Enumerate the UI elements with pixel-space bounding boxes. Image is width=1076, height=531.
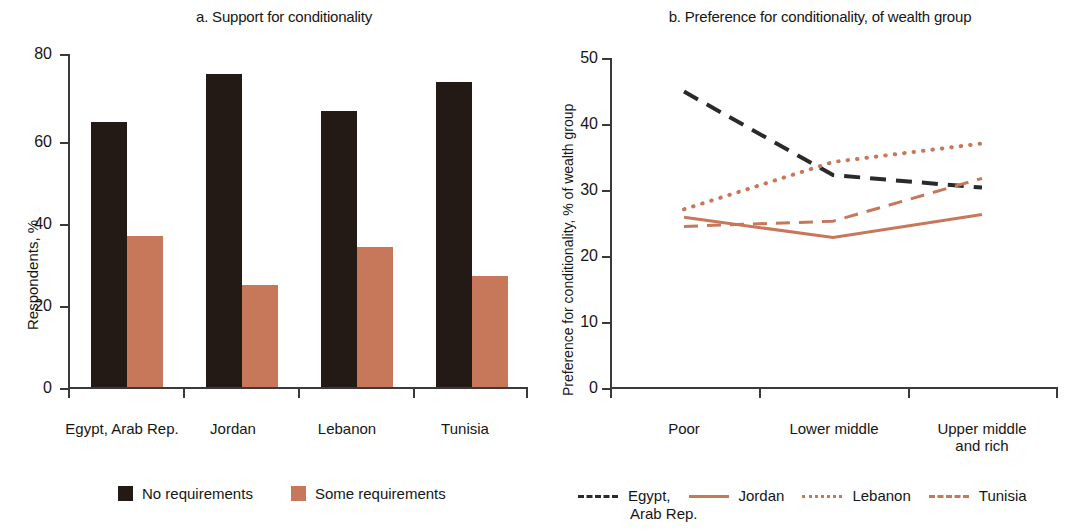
legend-swatch-accent-icon [291, 486, 306, 501]
bar-some-requirements-egypt[interactable] [127, 236, 163, 387]
panel-a-ytick-80: 80 [8, 45, 52, 63]
panel-a-ytick-0: 0 [8, 379, 52, 397]
panel-a-xlabel-jordan: Jordan [176, 420, 290, 437]
legend-label-egypt: Egypt, [628, 487, 671, 504]
legend-item-no-requirements[interactable]: No requirements [118, 485, 253, 502]
figure-root: a. Support for conditionality Respondent… [0, 0, 1076, 531]
panel-a-legend: No requirements Some requirements [118, 485, 446, 502]
panel-b-preference-for-conditionality: b. Preference for conditionality, of wea… [538, 0, 1076, 531]
panel-a-xtick-2 [298, 389, 300, 398]
legend-item-jordan[interactable]: Jordan [689, 487, 785, 504]
panel-b-xlabel-poor: Poor [624, 420, 744, 437]
legend-label-egypt-line2: Arab Rep. [630, 505, 1076, 522]
legend-label-jordan: Jordan [739, 487, 785, 504]
panel-b-xlabel-upper-middle-and-rich: Upper middle and rich [920, 420, 1044, 455]
bar-some-requirements-jordan[interactable] [242, 285, 278, 387]
line-jordan[interactable] [684, 215, 982, 238]
legend-label-some-requirements: Some requirements [315, 485, 446, 502]
bar-some-requirements-tunisia[interactable] [472, 276, 508, 387]
bar-no-requirements-jordan[interactable] [206, 74, 242, 387]
panel-a-ytick-20: 20 [8, 297, 52, 315]
panel-b-plot-area [538, 0, 1076, 400]
panel-a-xtick-0 [68, 389, 70, 398]
panel-b-xlabel-lower-middle: Lower middle [774, 420, 894, 437]
panel-a-title: a. Support for conditionality [0, 8, 538, 25]
panel-a-tick-20 [60, 306, 68, 308]
panel-a-ytick-60: 60 [8, 133, 52, 151]
panel-a-tick-60 [60, 142, 68, 144]
panel-a-tick-0 [60, 388, 68, 390]
legend-label-tunisia: Tunisia [979, 487, 1027, 504]
bar-no-requirements-lebanon[interactable] [321, 111, 357, 387]
legend-label-lebanon: Lebanon [852, 487, 910, 504]
bar-no-requirements-tunisia[interactable] [436, 82, 472, 387]
panel-a-support-for-conditionality: a. Support for conditionality Respondent… [0, 0, 538, 531]
legend-item-some-requirements[interactable]: Some requirements [291, 485, 446, 502]
legend-item-egypt[interactable]: Egypt, [578, 487, 671, 504]
panel-a-tick-80 [60, 54, 68, 56]
legend-item-lebanon[interactable]: Lebanon [802, 487, 910, 504]
bar-some-requirements-lebanon[interactable] [357, 247, 393, 387]
panel-a-plot-area [68, 54, 528, 387]
panel-a-xlabel-tunisia: Tunisia [406, 420, 524, 437]
panel-a-xtick-1 [183, 389, 185, 398]
legend-swatch-dark-icon [118, 486, 133, 501]
panel-a-tick-40 [60, 224, 68, 226]
bar-no-requirements-egypt[interactable] [91, 122, 127, 387]
legend-item-tunisia[interactable]: Tunisia [929, 487, 1027, 504]
panel-a-xlabel-lebanon: Lebanon [288, 420, 406, 437]
line-egypt-arab-rep[interactable] [684, 92, 982, 188]
panel-a-ytick-40: 40 [8, 215, 52, 233]
panel-a-xtick-4 [526, 389, 528, 398]
panel-b-legend: Egypt, Jordan Lebanon Tunisia Arab Rep. [578, 487, 1076, 522]
panel-a-xtick-3 [413, 389, 415, 398]
legend-label-no-requirements: No requirements [142, 485, 253, 502]
